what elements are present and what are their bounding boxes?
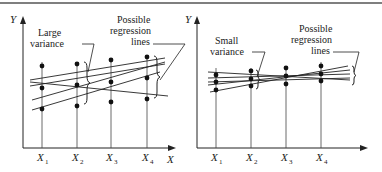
right-variance-label-line1: Small	[215, 35, 239, 46]
svg-text:X: X	[105, 151, 114, 163]
right-lines-label-line2: regression	[291, 34, 332, 45]
left-lines-label-line3: lines	[131, 36, 150, 47]
right-lines-leader	[333, 52, 359, 72]
left-x-tick-labels: X 1 X 2 X 3 X 4	[36, 151, 154, 166]
left-x-axis-arrow-icon	[168, 145, 176, 151]
right-variance-leader	[252, 52, 265, 77]
right-brace-x4	[352, 66, 356, 85]
regression-variance-diagram: Y X Large variance Possible	[0, 0, 382, 172]
right-y-axis-arrow-icon	[194, 16, 200, 24]
left-panel: Y X Large variance Possible	[10, 13, 185, 166]
svg-text:4: 4	[324, 158, 328, 166]
left-lines-label-line1: Possible	[117, 14, 151, 25]
right-y-axis-label: Y	[185, 13, 193, 25]
svg-text:X: X	[245, 151, 254, 163]
right-regression-lines	[208, 66, 350, 92]
right-lines-label-line1: Possible	[299, 23, 333, 34]
right-lines-label-line3: lines	[311, 45, 330, 56]
left-variance-label-line1: Large	[38, 27, 62, 38]
right-x-tick-labels: X 1 X 2 X 3 X 4	[210, 151, 328, 166]
left-brace-x4	[154, 56, 160, 98]
right-variance-label-line2: variance	[210, 46, 244, 57]
svg-text:X: X	[280, 151, 289, 163]
svg-text:1: 1	[45, 158, 49, 166]
left-y-axis-arrow-icon	[20, 16, 26, 24]
svg-text:3: 3	[289, 158, 293, 166]
svg-text:X: X	[71, 151, 80, 163]
svg-text:4: 4	[150, 158, 154, 166]
svg-text:X: X	[36, 151, 45, 163]
left-x-axis-label: X	[166, 153, 175, 165]
right-panel: Y Small variance Possible regression lin…	[185, 13, 368, 166]
svg-text:1: 1	[219, 158, 223, 166]
left-variance-leader	[82, 44, 94, 72]
svg-text:3: 3	[114, 158, 118, 166]
left-y-axis-label: Y	[10, 13, 18, 25]
svg-text:X: X	[141, 151, 150, 163]
svg-text:2: 2	[254, 158, 258, 166]
svg-text:2: 2	[80, 158, 84, 166]
svg-text:X: X	[315, 151, 324, 163]
svg-text:X: X	[210, 151, 219, 163]
left-variance-label-line2: variance	[30, 38, 64, 49]
left-lines-label-line2: regression	[110, 25, 151, 36]
right-x-axis-arrow-icon	[360, 145, 368, 151]
